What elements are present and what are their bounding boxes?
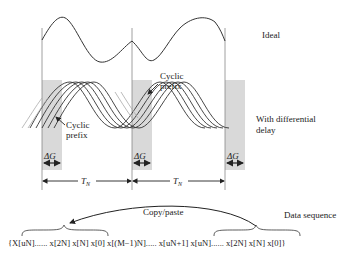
copy-paste-label: Copy/paste: [143, 207, 184, 217]
symbol-duration-markers: TN TN: [43, 176, 224, 187]
data-sequence-label: Data sequence: [284, 210, 336, 220]
t-n-label-2: TN: [173, 176, 183, 187]
delta-g-label-3: ΔG: [226, 151, 239, 161]
delta-g-label-2: ΔG: [133, 151, 146, 161]
ideal-label: Ideal: [262, 30, 280, 40]
ideal-waveform: [42, 17, 225, 62]
brace-left: [22, 225, 108, 236]
with-delay-label: With differential delay: [256, 114, 318, 135]
data-sequence-text: {X[uN]...... x[2N] x[N] x[0] x[(M−1)N]..…: [8, 238, 286, 248]
cyclic-prefix-lower-label: Cyclic prefix: [66, 120, 92, 140]
t-n-label-1: TN: [81, 176, 91, 187]
delta-g-label-1: ΔG: [43, 151, 56, 161]
ofdm-cyclic-prefix-diagram: Cyclic prefix Cyclic prefix Ideal With d…: [0, 0, 362, 264]
brace-right: [214, 225, 300, 236]
